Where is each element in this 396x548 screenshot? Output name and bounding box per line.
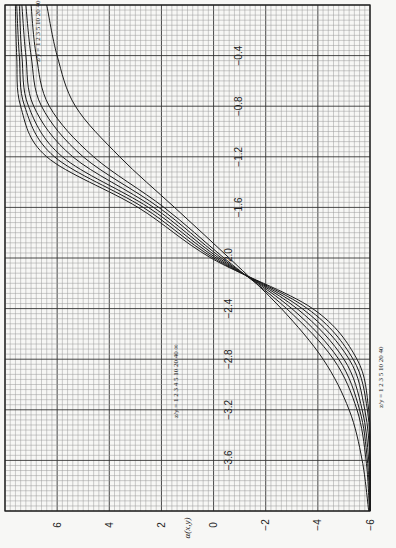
- y-tick-label: 0: [208, 522, 219, 528]
- x-tick-label: −0.4: [233, 45, 244, 65]
- y-tick-label: 2: [156, 522, 167, 528]
- legend-bottom: z/y = 1 2 3 5 10 20 40: [377, 346, 385, 408]
- x-tick-label: −2.4: [223, 298, 234, 318]
- x-tick-label: −1.2: [233, 146, 244, 166]
- x-tick-label: −3.6: [223, 450, 234, 470]
- y-tick-label: −4: [312, 519, 323, 531]
- y-tick-label: 6: [52, 522, 63, 528]
- chart: 6420−2−4−6−0.4−0.8−1.2−1.6−2.0−2.4−2.8−3…: [0, 0, 396, 548]
- x-tick-label: −2.0: [223, 248, 234, 268]
- y-tick-label: −2: [260, 519, 271, 531]
- x-tick-label: −3.2: [223, 399, 234, 419]
- x-tick-label: −2.8: [223, 349, 234, 369]
- legend-top: z/y = 1 2 3 5 10 20 40: [34, 0, 42, 62]
- y-tick-label: −6: [365, 519, 376, 531]
- x-tick-label: −1.6: [233, 197, 244, 217]
- y-tick-label: 4: [104, 522, 115, 528]
- legend-inner: z/y = 1 2 3 4 5 10 20 40 ∞: [172, 345, 180, 419]
- y-axis-title: α(x,y): [182, 518, 192, 539]
- grid: [5, 5, 370, 511]
- x-tick-label: −0.8: [233, 96, 244, 116]
